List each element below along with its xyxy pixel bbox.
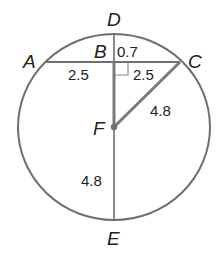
measure-fe: 4.8 [81, 172, 102, 189]
label-d: D [107, 9, 121, 30]
label-f: F [93, 118, 106, 139]
label-c: C [188, 51, 202, 72]
label-b: B [94, 41, 107, 62]
measure-ab: 2.5 [68, 66, 89, 83]
measure-bc: 2.5 [133, 66, 154, 83]
measure-fc: 4.8 [150, 102, 171, 119]
right-angle-marker [115, 63, 128, 75]
measure-bd: 0.7 [117, 43, 138, 60]
center-point-f [111, 124, 117, 130]
label-e: E [107, 228, 120, 249]
circle-diagram: D A B C F E 0.7 2.5 2.5 4.8 4.8 [0, 0, 223, 254]
label-a: A [22, 51, 36, 72]
